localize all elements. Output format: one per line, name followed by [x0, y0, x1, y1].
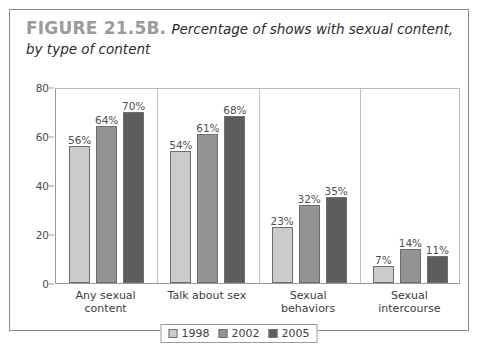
y-tick-label: 60 [23, 131, 49, 143]
legend-swatch-icon [219, 329, 228, 338]
x-category-label: Any sexualcontent [55, 289, 156, 315]
bar-value-label: 35% [324, 185, 347, 197]
bar: 32% [299, 205, 320, 283]
bar: 14% [400, 249, 421, 283]
y-tick-label: 80 [23, 82, 49, 94]
x-category-label-line: Sexual [258, 289, 359, 302]
y-tick-label: 0 [23, 278, 49, 290]
bar: 64% [96, 126, 117, 283]
bar-value-label: 54% [169, 139, 192, 151]
bar-value-label: 11% [426, 244, 449, 256]
x-category-label: Sexualbehaviors [258, 289, 359, 315]
legend-swatch-icon [169, 329, 178, 338]
bar-group: 7%14%11% [360, 89, 461, 283]
bar-value-label: 56% [68, 134, 91, 146]
y-tick-mark [49, 186, 54, 187]
y-tick-mark [49, 235, 54, 236]
legend-swatch-icon [269, 329, 278, 338]
bar-value-label: 61% [196, 122, 219, 134]
figure-frame: FIGURE 21.5B. Percentage of shows with s… [9, 9, 469, 331]
bar: 7% [373, 266, 394, 283]
x-category-label-line: Sexual [359, 289, 460, 302]
legend-item[interactable]: 2005 [269, 327, 310, 340]
legend-item[interactable]: 1998 [169, 327, 210, 340]
bar: 70% [123, 112, 144, 284]
x-category-label: Sexualintercourse [359, 289, 460, 315]
legend-label: 2002 [232, 327, 260, 340]
y-tick-label: 20 [23, 229, 49, 241]
bar-value-label: 68% [223, 104, 246, 116]
bar-value-label: 23% [270, 215, 293, 227]
legend-item[interactable]: 2002 [219, 327, 260, 340]
x-category-label-line: Talk about sex [156, 289, 257, 302]
y-tick-label: 40 [23, 180, 49, 192]
x-axis-category-labels: Any sexualcontentTalk about sexSexualbeh… [55, 289, 460, 319]
bar-value-label: 7% [375, 254, 392, 266]
x-category-label-line: intercourse [359, 302, 460, 315]
y-tick-mark [49, 137, 54, 138]
x-category-label: Talk about sex [156, 289, 257, 302]
x-category-label-line: content [55, 302, 156, 315]
y-tick-mark [49, 284, 54, 285]
y-axis-labels: 020406080 [19, 88, 49, 284]
bar-value-label: 14% [399, 237, 422, 249]
y-tick-mark [49, 88, 54, 89]
bar: 68% [224, 116, 245, 283]
bar: 11% [427, 256, 448, 283]
chart-legend: 199820022005 [161, 324, 318, 343]
bar: 54% [170, 151, 191, 283]
bar-group: 23%32%35% [259, 89, 360, 283]
bar-value-label: 32% [297, 193, 320, 205]
legend-label: 2005 [282, 327, 310, 340]
x-category-label-line: behaviors [258, 302, 359, 315]
figure-title: FIGURE 21.5B. Percentage of shows with s… [26, 19, 456, 59]
bar-group: 56%64%70% [56, 89, 157, 283]
figure-number-label: FIGURE 21.5B. [26, 18, 166, 38]
bar: 35% [326, 197, 347, 283]
bar: 23% [272, 227, 293, 283]
bar-value-label: 70% [122, 100, 145, 112]
legend-label: 1998 [182, 327, 210, 340]
bar-group: 54%61%68% [157, 89, 258, 283]
x-category-label-line: Any sexual [55, 289, 156, 302]
plot-area: 56%64%70%54%61%68%23%32%35%7%14%11% [55, 88, 460, 284]
bar: 61% [197, 134, 218, 283]
bar: 56% [69, 146, 90, 283]
bar-value-label: 64% [95, 114, 118, 126]
